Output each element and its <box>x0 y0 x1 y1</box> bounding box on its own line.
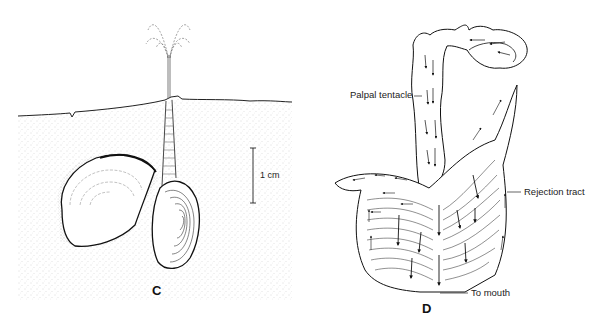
panel-letter-c: C <box>152 283 161 298</box>
label-palpal-tentacle: Palpal tentacle <box>350 89 412 100</box>
label-rejection-tract: Rejection tract <box>524 186 585 197</box>
panel-c: 1 cm C <box>0 0 295 320</box>
labial-palp-illustration <box>295 0 590 320</box>
panel-letter-d: D <box>422 301 431 316</box>
water-jet <box>168 55 170 98</box>
scale-bar-label: 1 cm <box>260 170 280 180</box>
burrowed-bivalve-illustration <box>0 0 295 320</box>
panel-d: Palpal tentacle Rejection tract To mouth… <box>295 0 590 320</box>
label-to-mouth: To mouth <box>471 287 510 298</box>
water-spray <box>146 25 190 58</box>
